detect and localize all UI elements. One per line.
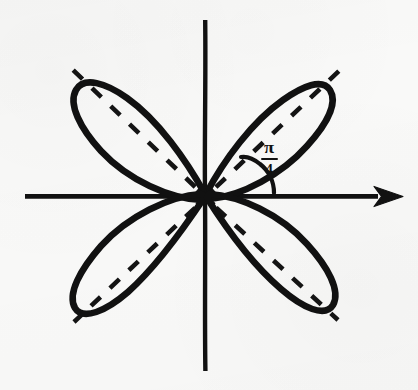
angle-label-denominator: 4: [252, 162, 287, 177]
angle-label-pi-over-4: π 4: [252, 139, 286, 177]
x-axis-arrowhead: [374, 186, 403, 206]
angle-label-fraction-bar: [261, 158, 278, 160]
figure-canvas: [0, 0, 418, 390]
petal-lower-right: [207, 194, 335, 311]
angle-label-numerator: π: [251, 139, 288, 157]
petal-upper-left: [74, 82, 205, 200]
rose-curve-figure: π 4: [0, 0, 418, 390]
petal-lower-left: [73, 194, 204, 314]
